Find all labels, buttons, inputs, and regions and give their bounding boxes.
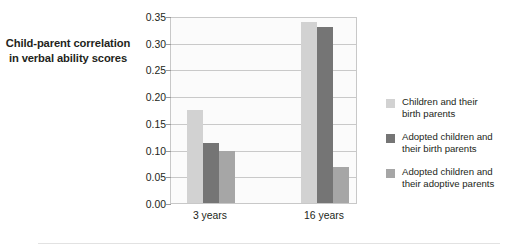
legend: Children and their birth parentsAdopted … xyxy=(386,96,504,202)
bar-chart-figure: Child-parent correlation in verbal abili… xyxy=(0,0,506,251)
legend-swatch xyxy=(386,134,395,143)
legend-item[interactable]: Adopted children and their adoptive pare… xyxy=(386,166,504,189)
y-tick-mark xyxy=(166,204,171,205)
y-tick-mark xyxy=(166,17,171,18)
bar xyxy=(203,143,219,203)
y-axis-tick-labels: 0.000.050.100.150.200.250.300.35 xyxy=(128,17,166,204)
bar xyxy=(187,110,203,204)
y-tick-label: 0.10 xyxy=(132,145,166,156)
legend-label: Children and their birth parents xyxy=(402,96,478,119)
y-tick-label: 0.15 xyxy=(132,118,166,129)
bar-group xyxy=(187,18,235,203)
bar xyxy=(301,22,317,203)
legend-swatch xyxy=(386,169,395,178)
y-tick-label: 0.30 xyxy=(132,38,166,49)
legend-item[interactable]: Children and their birth parents xyxy=(386,96,504,119)
y-axis-title-line-1: Child-parent correlation xyxy=(0,36,136,51)
legend-label: Adopted children and their adoptive pare… xyxy=(402,166,494,189)
y-axis-title: Child-parent correlation in verbal abili… xyxy=(0,36,136,66)
x-tick-label: 3 years xyxy=(165,210,255,221)
bars-layer xyxy=(171,18,356,203)
bar-group xyxy=(301,18,349,203)
x-tick-label: 16 years xyxy=(279,210,369,221)
bar xyxy=(317,27,333,203)
y-tick-mark xyxy=(166,44,171,45)
bar xyxy=(333,167,349,203)
legend-item[interactable]: Adopted children and their birth parents xyxy=(386,131,504,154)
y-tick-label: 0.20 xyxy=(132,92,166,103)
y-tick-mark xyxy=(166,70,171,71)
y-tick-label: 0.00 xyxy=(132,199,166,210)
y-tick-label: 0.35 xyxy=(132,12,166,23)
y-tick-mark xyxy=(166,151,171,152)
bar xyxy=(219,151,235,203)
legend-swatch xyxy=(386,99,395,108)
y-tick-label: 0.25 xyxy=(132,65,166,76)
y-tick-mark xyxy=(166,124,171,125)
y-tick-mark xyxy=(166,97,171,98)
plot-area xyxy=(170,17,357,204)
y-tick-mark xyxy=(166,177,171,178)
y-axis-title-line-2: in verbal ability scores xyxy=(0,51,136,66)
y-tick-label: 0.05 xyxy=(132,172,166,183)
bottom-divider xyxy=(38,243,500,244)
legend-label: Adopted children and their birth parents xyxy=(402,131,493,154)
